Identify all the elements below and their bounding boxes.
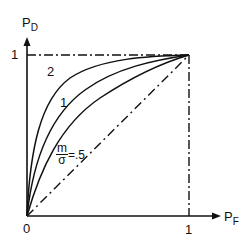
y-tick-one: 1 xyxy=(11,48,18,61)
y-axis-label-main: P xyxy=(22,15,31,30)
origin-label: 0 xyxy=(23,222,30,235)
curve-2-label: 2 xyxy=(47,65,54,78)
x-axis-label: PF xyxy=(224,210,239,223)
y-axis-arrow-icon xyxy=(24,37,31,46)
chance-diagonal xyxy=(27,55,189,216)
x-axis-label-sub: F xyxy=(233,216,239,227)
curve-half-label: m σ =.5 xyxy=(56,143,85,167)
x-axis-arrow-icon xyxy=(212,213,221,220)
y-axis-label-sub: D xyxy=(31,22,38,33)
x-tick-one: 1 xyxy=(185,223,192,236)
curve-1-label: 1 xyxy=(60,96,67,109)
curve-half-label-value: =.5 xyxy=(68,148,85,162)
x-axis-label-main: P xyxy=(224,209,233,224)
roc-chart xyxy=(0,0,245,248)
curve-half-label-denominator: σ xyxy=(58,155,65,166)
y-axis-label: PD xyxy=(22,16,38,29)
